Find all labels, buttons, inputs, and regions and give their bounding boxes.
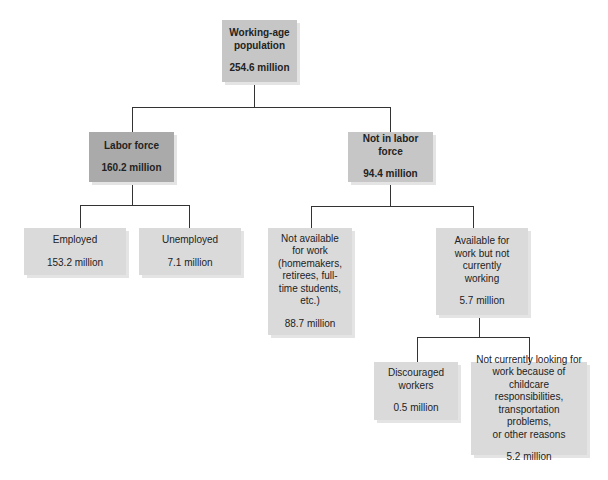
connector-to-discouraged: [417, 337, 418, 362]
node-value: 7.1 million: [167, 257, 212, 270]
connector-available-bar: [417, 337, 530, 338]
node-label: Labor force: [104, 140, 159, 153]
connector-not-in-lf-bar: [311, 206, 474, 207]
connector-root: [254, 82, 255, 107]
node-not-available-for-work: Not available for work (homemakers, reti…: [268, 228, 352, 335]
node-employed: Employed 153.2 million: [24, 228, 126, 275]
node-value: 160.2 million: [101, 162, 161, 175]
node-working-age-population: Working-age population 254.6 million: [222, 20, 297, 82]
node-available-not-working: Available for work but not currently wor…: [436, 228, 528, 315]
node-unemployed: Unemployed 7.1 million: [139, 228, 241, 275]
connector-to-employed: [80, 205, 81, 228]
node-label: Employed: [53, 234, 97, 247]
connector-to-unemployed: [189, 205, 190, 228]
node-value: 94.4 million: [363, 168, 417, 181]
node-value: 88.7 million: [285, 318, 336, 331]
node-labor-force: Labor force 160.2 million: [89, 132, 174, 182]
node-label: Discouraged workers: [388, 367, 444, 392]
node-label: Not available for work (homemakers, reti…: [278, 233, 342, 308]
node-value: 5.2 million: [506, 451, 551, 464]
node-discouraged-workers: Discouraged workers 0.5 million: [374, 362, 458, 420]
node-not-currently-looking: Not currently looking for work because o…: [471, 362, 587, 455]
node-label: Available for work but not currently wor…: [455, 235, 510, 285]
connector-labor-force-bar: [80, 205, 190, 206]
connector-available-down: [479, 315, 480, 337]
connector-to-not-available: [311, 206, 312, 228]
node-value: 254.6 million: [229, 62, 289, 75]
connector-level1-bar: [132, 107, 391, 108]
node-value: 0.5 million: [393, 402, 438, 415]
node-value: 153.2 million: [47, 257, 103, 270]
node-not-in-labor-force: Not in labor force 94.4 million: [348, 132, 433, 182]
connector-to-available: [473, 206, 474, 228]
node-value: 5.7 million: [459, 295, 504, 308]
node-label: Unemployed: [162, 234, 218, 247]
connector-not-in-lf-down: [390, 182, 391, 206]
connector-to-labor-force: [132, 107, 133, 132]
connector-labor-force-down: [132, 182, 133, 205]
connector-to-not-in-labor-force: [390, 107, 391, 132]
node-label: Not currently looking for work because o…: [476, 354, 582, 442]
node-label: Not in labor force: [353, 133, 428, 158]
node-label: Working-age population: [229, 27, 289, 52]
